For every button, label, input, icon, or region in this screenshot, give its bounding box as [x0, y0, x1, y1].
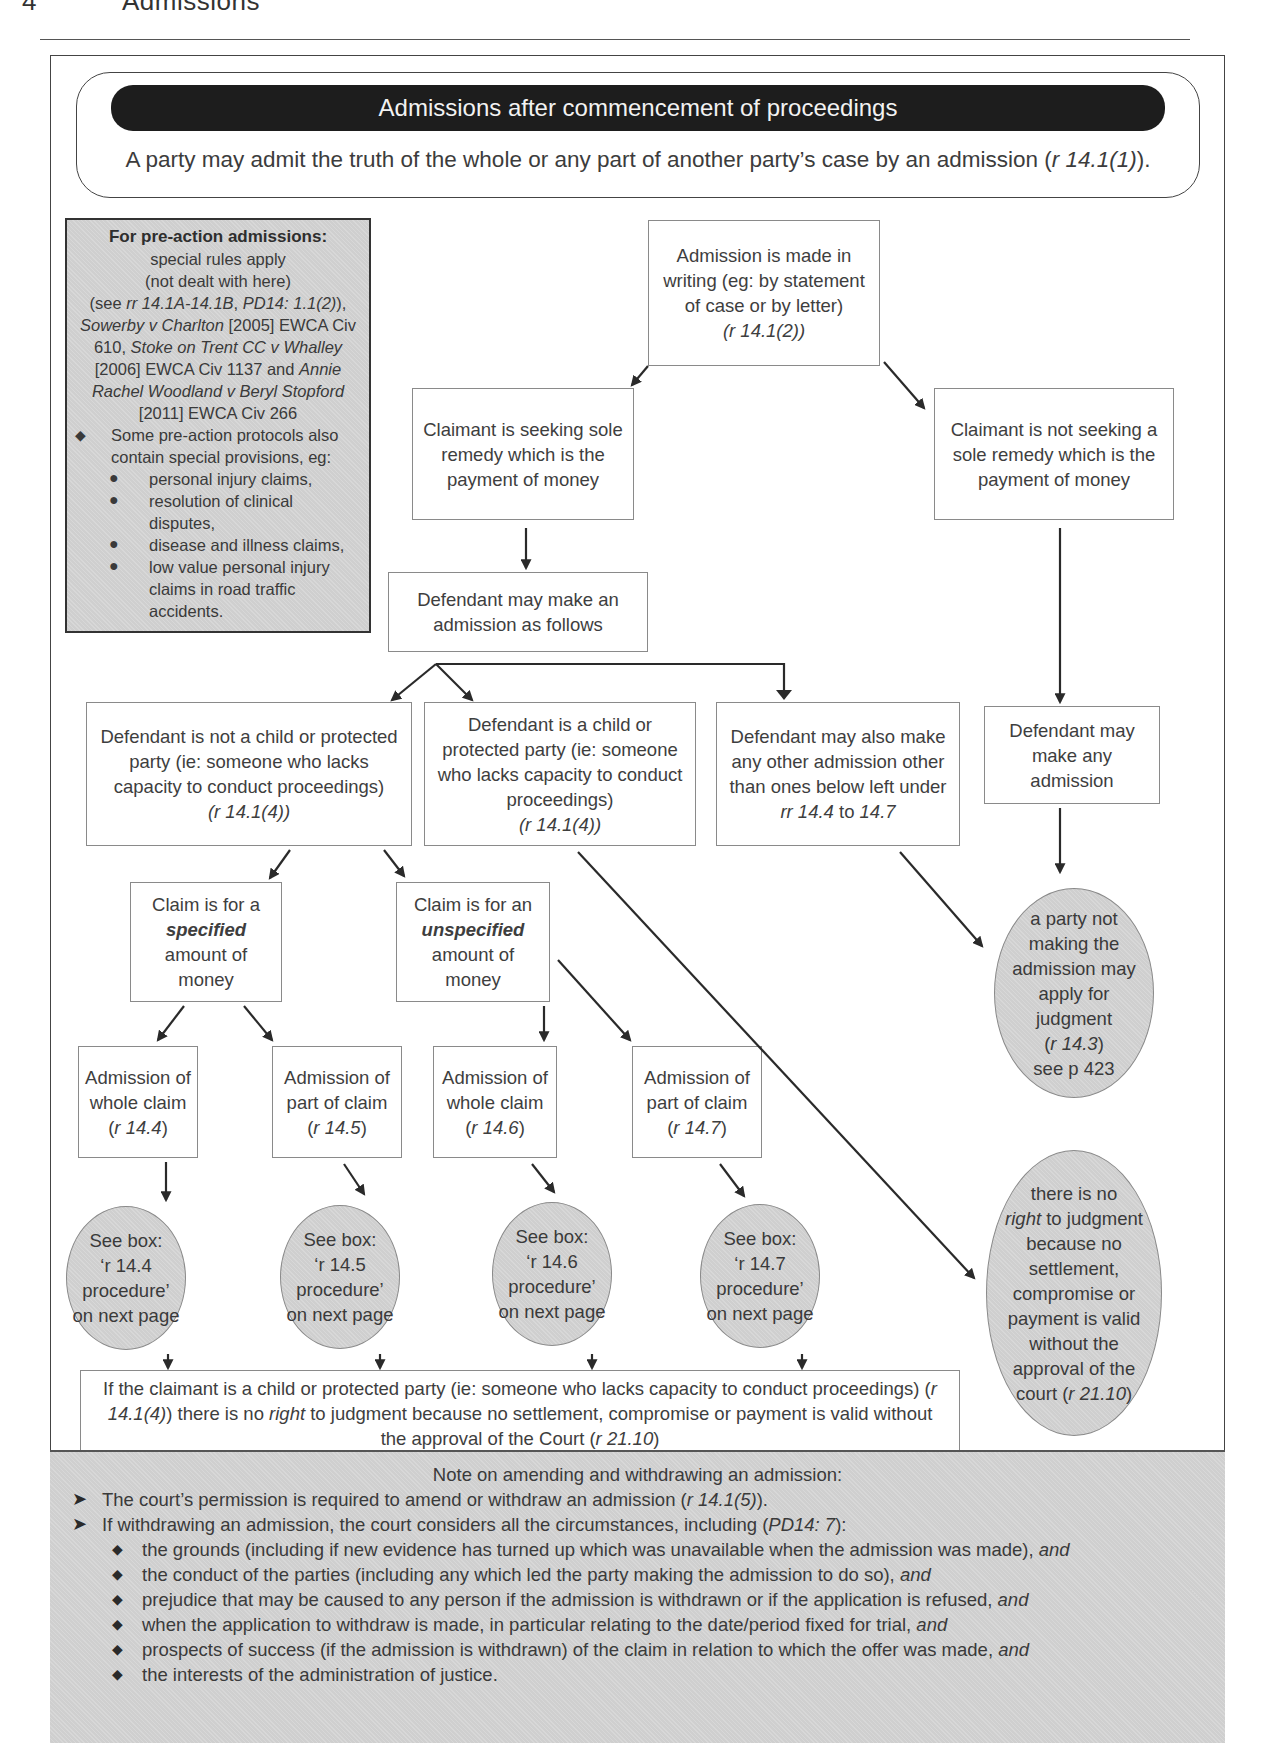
claimant-child-box: If the claimant is a child or protected …	[80, 1370, 960, 1456]
defendant-other-admission-box: Defendant may also make any other admiss…	[716, 702, 960, 846]
dot-bullet-icon: ●	[109, 533, 119, 555]
pre-action-heading: For pre-action admissions:	[73, 226, 363, 248]
pre-action-citations: (see rr 14.1A-14.1B, PD14: 1.1(2)), Sowe…	[73, 292, 363, 424]
chapter-title: Admissions	[122, 0, 260, 16]
diamond-bullet-icon: ◆	[112, 1537, 123, 1562]
intro-panel: Admissions after commencement of proceed…	[76, 72, 1200, 198]
diamond-bullet-icon: ◆	[75, 424, 86, 446]
admission-in-writing-box: Admission is made in writing (eg: by sta…	[648, 220, 880, 366]
defendant-any-admission-box: Defendant may make any admission	[984, 706, 1160, 804]
party-may-apply-ellipse: a party not making the admission may app…	[994, 888, 1154, 1098]
note-title: Note on amending and withdrawing an admi…	[68, 1462, 1207, 1487]
dot-bullet-icon: ●	[109, 555, 119, 577]
no-right-to-judgment-ellipse: there is noright to judgment because no …	[986, 1150, 1162, 1436]
running-head: 4Admissions	[22, 0, 260, 17]
arrow-bullet-icon: ➤	[72, 1512, 87, 1537]
defendant-not-child-box: Defendant is not a child or protected pa…	[86, 702, 412, 846]
claimant-seeking-money-box: Claimant is seeking sole remedy which is…	[412, 388, 634, 520]
list-item: ◆prospects of success (if the admission …	[68, 1637, 1207, 1662]
dot-bullet-icon: ●	[109, 467, 119, 489]
page-number: 4	[22, 0, 122, 17]
see-box-14-5-ellipse: See box:‘r 14.5 procedure’on next page	[280, 1205, 400, 1349]
list-item: ◆when the application to withdraw is mad…	[68, 1612, 1207, 1637]
list-item: ◆prejudice that may be caused to any per…	[68, 1587, 1207, 1612]
pre-action-line: (not dealt with here)	[73, 270, 363, 292]
diamond-bullet-icon: ◆	[112, 1612, 123, 1637]
note-point: ➤If withdrawing an admission, the court …	[68, 1512, 1207, 1537]
claim-specified-box: Claim is for aspecifiedamount of money	[130, 882, 282, 1002]
defendant-child-box: Defendant is a child or protected party …	[424, 702, 696, 846]
claimant-not-seeking-money-box: Claimant is not seeking a sole remedy wh…	[934, 388, 1174, 520]
list-item: ●personal injury claims,	[73, 468, 363, 490]
figure-title: Admissions after commencement of proceed…	[111, 85, 1165, 131]
amend-withdraw-note: Note on amending and withdrawing an admi…	[50, 1450, 1225, 1743]
see-box-14-6-ellipse: See box:‘r 14.6 procedure’on next page	[492, 1202, 612, 1346]
list-item: ●resolution of clinical disputes,	[73, 490, 363, 534]
admission-part-claim-14-7-box: Admission of part of claim(r 14.7)	[632, 1046, 762, 1158]
list-item: ●disease and illness claims,	[73, 534, 363, 556]
admission-part-claim-14-5-box: Admission of part of claim(r 14.5)	[272, 1046, 402, 1158]
diamond-bullet-icon: ◆	[112, 1662, 123, 1687]
admission-whole-claim-14-4-box: Admission of whole claim(r 14.4)	[78, 1046, 198, 1158]
diamond-bullet-icon: ◆	[112, 1587, 123, 1612]
claim-unspecified-box: Claim is for anunspecifiedamount of mone…	[396, 882, 550, 1002]
list-item: ◆the conduct of the parties (including a…	[68, 1562, 1207, 1587]
header-divider	[40, 39, 1190, 40]
pre-action-admissions-box: For pre-action admissions: special rules…	[65, 218, 371, 633]
pre-action-line: special rules apply	[73, 248, 363, 270]
admission-whole-claim-14-6-box: Admission of whole claim(r 14.6)	[433, 1046, 557, 1158]
defendant-may-admit-box: Defendant may make an admission as follo…	[388, 572, 648, 652]
diamond-bullet-icon: ◆	[112, 1637, 123, 1662]
intro-text: A party may admit the truth of the whole…	[77, 147, 1199, 173]
see-box-14-4-ellipse: See box:‘r 14.4 procedure’on next page	[66, 1206, 186, 1350]
dot-bullet-icon: ●	[109, 489, 119, 511]
see-box-14-7-ellipse: See box:‘r 14.7 procedure’on next page	[700, 1204, 820, 1348]
list-item: ◆the interests of the administration of …	[68, 1662, 1207, 1687]
note-point: ➤The court’s permission is required to a…	[68, 1487, 1207, 1512]
list-item: ◆the grounds (including if new evidence …	[68, 1537, 1207, 1562]
protocols-intro: ◆Some pre-action protocols also contain …	[73, 424, 363, 468]
arrow-bullet-icon: ➤	[72, 1487, 87, 1512]
protocols-list: ●personal injury claims, ●resolution of …	[73, 468, 363, 622]
list-item: ●low value personal injury claims in roa…	[73, 556, 363, 622]
diamond-bullet-icon: ◆	[112, 1562, 123, 1587]
